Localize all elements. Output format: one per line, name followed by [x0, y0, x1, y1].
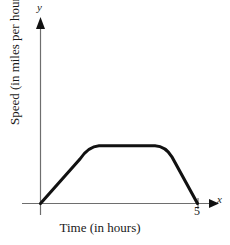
y-axis-title: Speed (in miles per hour) [8, 0, 21, 144]
x-axis-letter: x [217, 194, 222, 205]
x-tick-label-5: 5 [194, 205, 200, 217]
y-axis-title-container: Speed (in miles per hour) [8, 0, 26, 144]
y-axis-arrowhead [36, 17, 45, 29]
speed-time-graph-figure: y x 5 Time (in hours) Speed (in miles pe… [0, 0, 230, 245]
x-axis-title: Time (in hours) [0, 221, 200, 234]
y-axis-letter: y [37, 2, 42, 13]
speed-curve [41, 146, 198, 204]
